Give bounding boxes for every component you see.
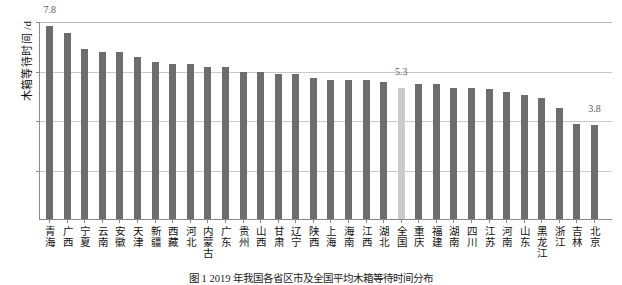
- x-axis-tick-mark: [119, 219, 120, 223]
- x-axis-tick-mark: [67, 219, 68, 223]
- bar-rect: [521, 95, 528, 219]
- bar-rect: [398, 88, 405, 219]
- x-axis-tick-mark: [506, 219, 507, 223]
- x-axis-label-河南: 河南: [500, 226, 512, 248]
- bar-rect: [450, 88, 457, 219]
- y-axis-title: 木箱等待时间 /d: [18, 0, 36, 146]
- bar-rect: [81, 49, 88, 219]
- x-axis-label-陕西: 陕西: [306, 226, 318, 248]
- bar-山东[interactable]: [521, 21, 528, 219]
- x-axis-tick-mark: [541, 219, 542, 223]
- x-axis-tick-mark: [102, 219, 103, 223]
- bar-河北[interactable]: [187, 21, 194, 219]
- bar-全国[interactable]: 5.3: [398, 21, 405, 219]
- bar-上海[interactable]: [327, 21, 334, 219]
- x-axis-tick-mark: [84, 219, 85, 223]
- bar-rect: [64, 33, 71, 219]
- bar-山西[interactable]: [257, 21, 264, 219]
- bar-rect: [503, 92, 510, 219]
- bar-rect: [257, 72, 264, 219]
- bar-内蒙古[interactable]: [204, 21, 211, 219]
- x-axis-tick-mark: [436, 219, 437, 223]
- x-axis-tick-mark: [225, 219, 226, 223]
- x-axis-label-黑龙江: 黑龙江: [535, 226, 547, 259]
- bar-福建[interactable]: [433, 21, 440, 219]
- x-axis-tick-mark: [137, 219, 138, 223]
- x-axis-label-山东: 山东: [517, 226, 529, 248]
- bar-辽宁[interactable]: [292, 21, 299, 219]
- bar-天津[interactable]: [134, 21, 141, 219]
- x-axis-tick-mark: [594, 219, 595, 223]
- x-axis-tick-mark: [366, 219, 367, 223]
- x-axis-tick-mark: [348, 219, 349, 223]
- bar-rect: [99, 52, 106, 219]
- bar-rect: [486, 89, 493, 219]
- bar-rect: [187, 64, 194, 219]
- bar-rect: [556, 108, 563, 219]
- bar-黑龙江[interactable]: [538, 21, 545, 219]
- bar-河南[interactable]: [503, 21, 510, 219]
- x-axis-tick-mark: [260, 219, 261, 223]
- x-axis-label-广东: 广东: [218, 226, 230, 248]
- bar-海南[interactable]: [345, 21, 352, 219]
- bar-广东[interactable]: [222, 21, 229, 219]
- x-axis-label-重庆: 重庆: [412, 226, 424, 248]
- x-axis-label-安徽: 安徽: [113, 226, 125, 248]
- x-axis-tick-mark: [524, 219, 525, 223]
- bar-rect: [292, 74, 299, 219]
- bar-云南[interactable]: [99, 21, 106, 219]
- bar-value-label-北京: 3.8: [588, 103, 601, 114]
- x-axis-label-全国: 全国: [394, 226, 406, 248]
- x-axis-label-山西: 山西: [254, 226, 266, 248]
- x-axis-label-天津: 天津: [131, 226, 143, 248]
- bar-rect: [327, 80, 334, 219]
- x-axis-tick-mark: [471, 219, 472, 223]
- bar-value-label-青海: 7.8: [43, 4, 56, 15]
- x-axis-label-江西: 江西: [359, 226, 371, 248]
- bar-陕西[interactable]: [310, 21, 317, 219]
- x-axis-tick-mark: [190, 219, 191, 223]
- bar-rect: [46, 26, 53, 219]
- x-axis-label-江苏: 江苏: [482, 226, 494, 248]
- bar-青海[interactable]: 7.8: [46, 21, 53, 219]
- x-axis-label-内蒙古: 内蒙古: [201, 226, 213, 259]
- bar-广西[interactable]: [64, 21, 71, 219]
- bar-rect: [363, 80, 370, 219]
- bar-西藏[interactable]: [169, 21, 176, 219]
- bar-湖北[interactable]: [380, 21, 387, 219]
- bar-北京[interactable]: 3.8: [591, 21, 598, 219]
- x-axis-label-湖南: 湖南: [447, 226, 459, 248]
- bar-吉林[interactable]: [573, 21, 580, 219]
- bar-重庆[interactable]: [415, 21, 422, 219]
- bar-rect: [116, 52, 123, 219]
- bar-湖南[interactable]: [450, 21, 457, 219]
- bar-贵州[interactable]: [240, 21, 247, 219]
- x-axis-tick-mark: [278, 219, 279, 223]
- bar-rect: [134, 57, 141, 219]
- x-axis-label-海南: 海南: [341, 226, 353, 248]
- x-axis-category-labels: 青海广西宁夏云南安徽天津新疆西藏河北内蒙古广东贵州山西甘肃辽宁陕西上海海南江西湖…: [39, 226, 612, 266]
- bar-浙江[interactable]: [556, 21, 563, 219]
- x-axis-tick-mark: [295, 219, 296, 223]
- x-axis-label-湖北: 湖北: [377, 226, 389, 248]
- bar-宁夏[interactable]: [81, 21, 88, 219]
- x-axis-label-广西: 广西: [60, 226, 72, 248]
- bar-rect: [468, 88, 475, 219]
- bar-series: 7.85.33.8: [40, 22, 612, 219]
- x-axis-tick-mark: [576, 219, 577, 223]
- bar-rect: [152, 62, 159, 219]
- bar-安徽[interactable]: [116, 21, 123, 219]
- bar-rect: [345, 80, 352, 219]
- bar-四川[interactable]: [468, 21, 475, 219]
- x-axis-label-上海: 上海: [324, 226, 336, 248]
- x-axis-label-北京: 北京: [588, 226, 600, 248]
- bar-rect: [433, 84, 440, 219]
- x-axis-tick-mark: [313, 219, 314, 223]
- x-axis-label-青海: 青海: [43, 226, 55, 248]
- bar-新疆[interactable]: [152, 21, 159, 219]
- bar-rect: [310, 78, 317, 219]
- bar-江西[interactable]: [363, 21, 370, 219]
- x-axis-tick-mark: [330, 219, 331, 223]
- bar-江苏[interactable]: [486, 21, 493, 219]
- bar-甘肃[interactable]: [275, 21, 282, 219]
